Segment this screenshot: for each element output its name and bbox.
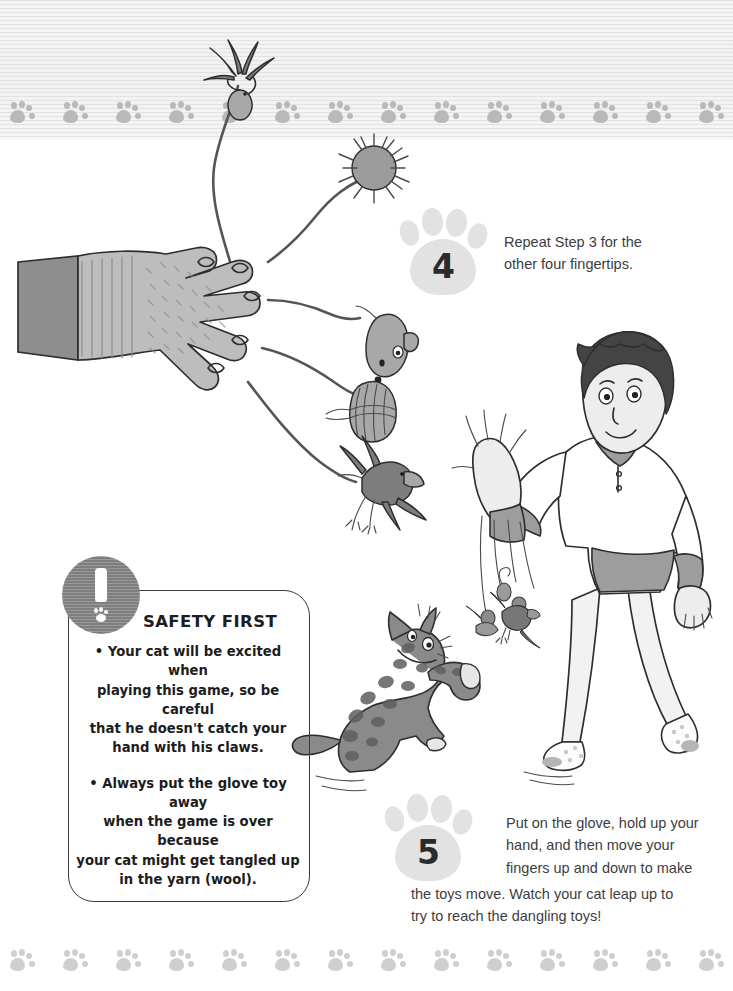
paw-print-icon xyxy=(222,101,249,125)
paw-print-icon xyxy=(63,949,90,973)
paw-print-icon xyxy=(487,101,514,125)
paw-print-icon xyxy=(699,949,726,973)
paw-print-icon xyxy=(381,101,408,125)
paw-print-icon xyxy=(275,949,302,973)
step-4-line-2: other four fingertips. xyxy=(504,253,719,275)
pompom-toy-icon xyxy=(339,134,409,203)
paw-print-icon xyxy=(10,949,37,973)
paw-print-icon xyxy=(116,101,143,125)
paw-print-icon xyxy=(434,101,461,125)
paw-toe-icon xyxy=(421,207,444,237)
paw-print-icon xyxy=(699,101,726,125)
step-4-text: Repeat Step 3 for the other four fingert… xyxy=(504,231,719,276)
step-5-line-3: fingers up and down to make xyxy=(506,857,731,879)
step-4-number: 4 xyxy=(396,242,491,292)
paw-print-icon xyxy=(116,949,143,973)
paw-print-icon xyxy=(487,949,514,973)
paw-print-icon xyxy=(593,101,620,125)
paw-print-icon xyxy=(328,949,355,973)
paw-print-icon xyxy=(169,949,196,973)
knit-glove-illustration xyxy=(18,247,260,389)
yarn-ball-toy-icon xyxy=(326,381,396,442)
paw-print-icon xyxy=(10,101,37,125)
bottom-paw-print-border xyxy=(0,944,733,978)
paw-print-icon xyxy=(381,949,408,973)
paw-print-icon xyxy=(593,949,620,973)
safety-bullet-2: • Always put the glove toy away when the… xyxy=(74,774,302,890)
boy-illustration xyxy=(452,332,712,785)
step-5-text-upper: Put on the glove, hold up your hand, and… xyxy=(506,812,731,879)
cat-illustration xyxy=(292,604,480,791)
paw-print-icon xyxy=(169,101,196,125)
mini-bird-toy xyxy=(490,592,540,648)
toy-cords xyxy=(213,86,362,482)
paw-print-icon xyxy=(222,949,249,973)
step-4-line-1: Repeat Step 3 for the xyxy=(504,231,719,253)
bird-toy-icon xyxy=(338,436,426,534)
paw-print-icon xyxy=(63,101,90,125)
paw-print-icon xyxy=(275,101,302,125)
paw-toe-icon xyxy=(406,793,429,823)
step-5-number: 5 xyxy=(381,828,476,878)
fingertip-knots xyxy=(198,258,260,373)
step-4-paw-badge: 4 xyxy=(396,206,491,301)
paw-print-icon xyxy=(540,101,567,125)
mouse-toy-icon xyxy=(356,306,418,383)
page-canvas: 4 Repeat Step 3 for the other four finge… xyxy=(0,0,733,991)
paw-print-icon xyxy=(434,949,461,973)
paw-print-icon xyxy=(328,101,355,125)
step-5-line-2: hand, and then move your xyxy=(506,834,731,856)
step-5-paw-badge: 5 xyxy=(381,792,476,887)
safety-bullet-1: • Your cat will be excited when playing … xyxy=(74,642,302,758)
exclamation-bar xyxy=(95,568,107,602)
step-5-text-lower: the toys move. Watch your cat leap up to… xyxy=(411,883,731,928)
paw-print-icon xyxy=(646,949,673,973)
top-paw-print-border xyxy=(0,96,733,130)
paw-toe-icon xyxy=(444,208,468,238)
step-5-line-4: the toys move. Watch your cat leap up to xyxy=(411,883,731,905)
paw-print-icon xyxy=(646,101,673,125)
dangling-toys xyxy=(466,516,540,648)
safety-first-body: • Your cat will be excited when playing … xyxy=(74,642,302,905)
paw-toe-icon xyxy=(429,794,453,824)
safety-first-title: SAFETY FIRST xyxy=(68,612,308,631)
paw-print-icon xyxy=(540,949,567,973)
step-5-line-5: try to reach the dangling toys! xyxy=(411,905,731,927)
step-5-line-1: Put on the glove, hold up your xyxy=(506,812,731,834)
